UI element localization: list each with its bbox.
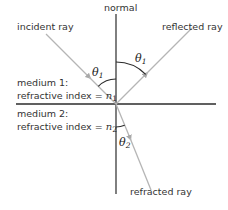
theta2-refracted-label: θ2 — [119, 136, 131, 150]
medium1-index-label: refractive index = n1 — [17, 90, 117, 103]
medium2-label: medium 2: — [17, 108, 68, 119]
theta1-reflected-label: θ1 — [135, 52, 146, 66]
refraction-diagram: normal incident ray reflected ray refrac… — [0, 0, 228, 210]
medium2-index-label: refractive index = n2 — [17, 121, 117, 134]
incident-ray-label: incident ray — [17, 21, 74, 32]
normal-label: normal — [104, 2, 137, 13]
reflected-ray-label: reflected ray — [162, 21, 223, 32]
incident-angle-arc — [98, 79, 116, 86]
medium1-label: medium 1: — [17, 77, 68, 88]
theta1-incident-label: θ1 — [92, 66, 103, 80]
refracted-ray-label: refracted ray — [130, 186, 192, 197]
reflected-ray — [116, 28, 192, 104]
refracted-angle-arc — [116, 125, 125, 127]
